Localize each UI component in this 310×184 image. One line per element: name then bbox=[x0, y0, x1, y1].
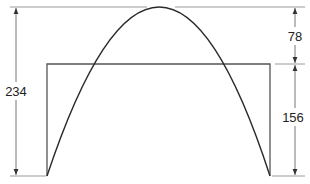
dimension-label-78: 78 bbox=[288, 29, 302, 44]
parabola-curve bbox=[47, 7, 270, 176]
rectangle-outline bbox=[47, 64, 270, 176]
dimension-label-156: 156 bbox=[282, 110, 304, 125]
dimension-label-234: 234 bbox=[5, 84, 27, 99]
arch-diagram: 234 78 156 bbox=[0, 0, 310, 184]
